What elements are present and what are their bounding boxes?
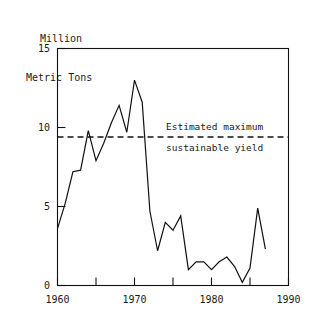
y-tick-label-5: 5 [44,201,50,212]
y-tick-label-15: 15 [38,43,50,54]
y-tick-label-0: 0 [44,280,50,291]
annotation-label-line-1: Estimated maximum [166,121,264,132]
data-series-catch [58,80,266,282]
annotation-label-line-2: sustainable yield [166,142,263,153]
x-axis-ticks [58,278,289,286]
chart-container: Million Metric Tons 0 5 10 15 [0,0,317,325]
x-axis-tick-labels: 1960 1970 1980 1990 [45,294,300,305]
y-tick-label-10: 10 [38,122,50,133]
y-axis-tick-labels: 0 5 10 15 [38,43,50,291]
x-tick-label-1990: 1990 [276,294,300,305]
chart-plot-area: 0 5 10 15 1960 1970 1980 1990 Estimated … [0,0,317,325]
y-axis-ticks [58,49,66,286]
x-tick-label-1970: 1970 [122,294,146,305]
x-tick-label-1960: 1960 [45,294,69,305]
plot-frame [58,49,289,286]
x-tick-label-1980: 1980 [199,294,223,305]
